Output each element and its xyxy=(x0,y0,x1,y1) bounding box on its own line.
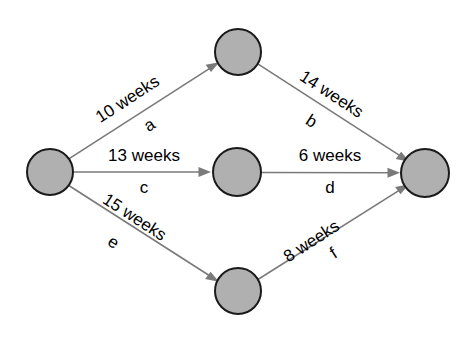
node-bottom[interactable] xyxy=(215,268,261,314)
edge-e-activity-label: e xyxy=(104,232,122,253)
edge-b-activity-label: b xyxy=(302,111,320,132)
node-start[interactable] xyxy=(27,149,73,195)
node-middle[interactable] xyxy=(213,148,261,196)
edge-d-weight-label: 6 weeks xyxy=(299,146,361,165)
edge-a-activity-label: a xyxy=(140,114,159,135)
edge-d-arrowhead xyxy=(388,168,401,178)
edge-d-activity-label: d xyxy=(325,178,334,197)
network-diagram-canvas: 10 weeks a 14 weeks b 13 weeks c 6 weeks… xyxy=(0,0,469,339)
edge-b-weight-label: 14 weeks xyxy=(296,67,367,122)
edge-c-activity-label: c xyxy=(140,178,149,197)
edge-a-weight-label: 10 weeks xyxy=(92,72,163,127)
node-top[interactable] xyxy=(215,29,261,75)
network-diagram: 10 weeks a 14 weeks b 13 weeks c 6 weeks… xyxy=(0,0,469,339)
node-end[interactable] xyxy=(401,149,449,197)
edge-d[interactable] xyxy=(261,168,400,178)
edge-c[interactable] xyxy=(73,167,211,177)
edge-c-arrowhead xyxy=(199,167,212,177)
edge-f-activity-label: f xyxy=(326,244,341,263)
edge-e-weight-label: 15 weeks xyxy=(99,190,170,245)
edge-c-weight-label: 13 weeks xyxy=(108,146,180,165)
edge-b-line xyxy=(258,64,406,160)
